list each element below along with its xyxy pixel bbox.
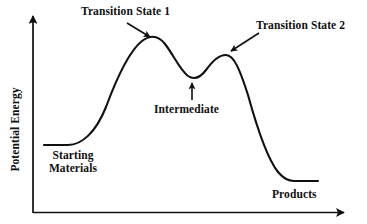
starting-materials-label-line1: Starting bbox=[42, 149, 104, 162]
transition-state-2-label: Transition State 2 bbox=[256, 19, 345, 32]
transition-state-2-pointer-arrow bbox=[231, 33, 259, 51]
starting-materials-label: Starting Materials bbox=[42, 149, 104, 175]
starting-materials-label-line2: Materials bbox=[42, 162, 104, 175]
products-label: Products bbox=[272, 188, 317, 201]
y-axis-label: Potential Energy bbox=[9, 69, 22, 189]
transition-state-1-pointer-arrow bbox=[127, 23, 150, 37]
intermediate-label: Intermediate bbox=[154, 103, 219, 116]
transition-state-1-label: Transition State 1 bbox=[81, 5, 170, 18]
reaction-coordinate-diagram: Transition State 1 Transition State 2 In… bbox=[0, 0, 367, 224]
